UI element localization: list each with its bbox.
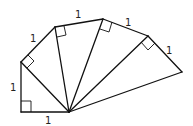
unit-edge-3 [55, 19, 103, 27]
hypotenuse-4 [69, 36, 148, 112]
right-angle-icon [141, 42, 155, 50]
right-angle-icon [21, 101, 31, 112]
label-leg3: 1 [75, 9, 81, 20]
unit-edge-5 [148, 36, 182, 72]
label-leg1: 1 [10, 82, 16, 93]
label-base: 1 [45, 115, 51, 126]
unit-edge-2 [21, 27, 55, 62]
label-leg2: 1 [30, 33, 36, 44]
hypotenuse-3 [69, 19, 103, 112]
label-leg5: 1 [166, 45, 172, 56]
labels: 1 1 1 1 1 1 [10, 9, 172, 126]
hypotenuses [21, 19, 182, 112]
spiral-diagram: 1 1 1 1 1 1 [0, 0, 193, 126]
right-angle-markers [21, 22, 155, 112]
hypotenuse-5 [69, 72, 182, 112]
right-angle-icon [27, 55, 34, 68]
outer-edges [21, 19, 182, 112]
label-leg4: 1 [125, 17, 131, 28]
right-angle-icon [57, 26, 66, 37]
